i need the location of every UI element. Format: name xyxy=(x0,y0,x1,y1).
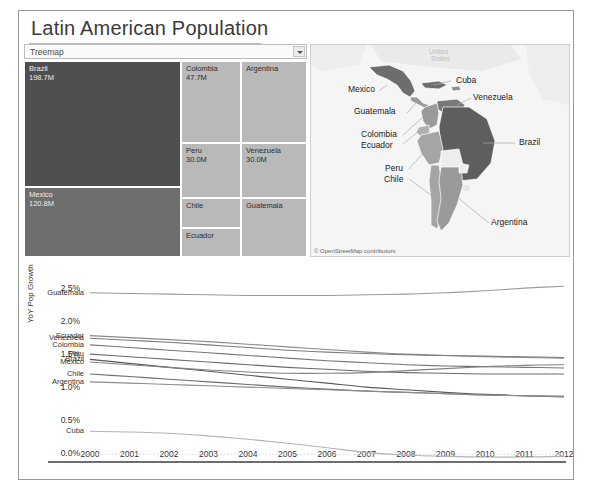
line-series-mexico[interactable] xyxy=(90,362,564,373)
treemap-tile-ecuador[interactable]: Ecuador xyxy=(181,228,241,257)
map-label-venezuela: Venezuela xyxy=(473,92,513,102)
treemap-tile-name: Mexico xyxy=(29,190,53,199)
svg-text:States: States xyxy=(431,55,450,62)
map-label-colombia: Colombia xyxy=(361,129,397,139)
treemap-tile-chile[interactable]: Chile xyxy=(181,198,241,228)
dashboard-panel: Latin American Population Treemap Brazil… xyxy=(18,10,574,480)
treemap-tile-value: 198.7M xyxy=(29,73,54,82)
treemap-tile-value: 30.0M xyxy=(246,155,267,164)
map-label-guatemala: Guatemala xyxy=(354,106,396,116)
line-chart-plot xyxy=(24,261,570,475)
line-series-venezuela[interactable] xyxy=(90,338,564,357)
map-panel[interactable]: United States xyxy=(310,44,570,257)
treemap-tile-name: Brazil xyxy=(29,64,48,73)
treemap-tile-guatemala[interactable]: Guatemala xyxy=(241,198,307,257)
line-series-chile[interactable] xyxy=(90,374,564,396)
treemap-tile-brazil[interactable]: Brazil198.7M xyxy=(24,61,181,187)
treemap-tile-name: Peru xyxy=(186,146,202,155)
line-series-cuba[interactable] xyxy=(90,431,564,457)
view-selector-value: Treemap xyxy=(30,47,64,57)
treemap-tile-name: Ecuador xyxy=(186,231,214,240)
map-label-peru: Peru xyxy=(385,163,403,173)
page-title: Latin American Population xyxy=(31,17,268,40)
treemap-tile-value: 30.0M xyxy=(186,155,207,164)
map-label-mexico: Mexico xyxy=(348,84,375,94)
svg-text:United: United xyxy=(429,48,448,55)
view-selector-dropdown[interactable]: Treemap xyxy=(24,44,307,59)
line-chart: YoY Pop Growth 0.0%0.5%1.0%1.5%2.0%2.5% … xyxy=(24,261,570,475)
map-label-chile: Chile xyxy=(384,174,403,184)
map-label-cuba: Cuba xyxy=(456,75,476,85)
treemap-tile-peru[interactable]: Peru30.0M xyxy=(181,143,241,198)
treemap-tile-name: Guatemala xyxy=(246,201,283,210)
chevron-down-icon[interactable] xyxy=(293,46,305,57)
map-graphic: United States xyxy=(311,45,569,256)
map-label-brazil: Brazil xyxy=(519,137,540,147)
treemap-chart: Brazil198.7MMexico120.8MColombia47.7MArg… xyxy=(24,61,307,257)
treemap-tile-argentina[interactable]: Argentina xyxy=(241,61,307,143)
treemap-tile-name: Venezuela xyxy=(246,146,281,155)
line-series-ecuador[interactable] xyxy=(90,336,564,358)
line-series-guatemala[interactable] xyxy=(90,286,564,295)
map-label-ecuador: Ecuador xyxy=(361,140,393,150)
treemap-tile-name: Argentina xyxy=(246,64,278,73)
map-label-argentina: Argentina xyxy=(491,217,527,227)
map-attribution: © OpenStreetMap contributors xyxy=(314,248,395,254)
treemap-tile-venezuela[interactable]: Venezuela30.0M xyxy=(241,143,307,198)
treemap-tile-mexico[interactable]: Mexico120.8M xyxy=(24,187,181,257)
treemap-tile-colombia[interactable]: Colombia47.7M xyxy=(181,61,241,143)
treemap-tile-value: 120.8M xyxy=(29,199,54,208)
treemap-tile-name: Chile xyxy=(186,201,203,210)
treemap-tile-name: Colombia xyxy=(186,64,218,73)
x-axis-line xyxy=(48,461,566,463)
treemap-tile-value: 47.7M xyxy=(186,73,207,82)
